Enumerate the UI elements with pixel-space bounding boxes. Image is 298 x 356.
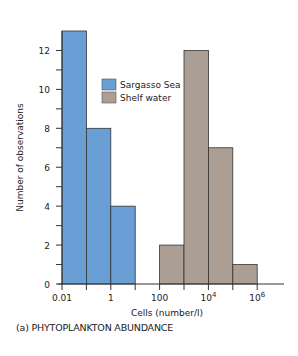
y-tick-label-4: 4 bbox=[44, 202, 50, 212]
x-ticks-group: 0.011100104106 bbox=[52, 284, 266, 303]
y-tick-label-8: 8 bbox=[44, 124, 50, 134]
y-tick-label-10: 10 bbox=[39, 85, 51, 95]
legend: Sargasso SeaShelf water bbox=[102, 79, 181, 103]
legend-label-1: Shelf water bbox=[120, 93, 171, 103]
bar-shelf-water-1 bbox=[184, 50, 208, 284]
histogram-chart: 024681012 0.011100104106 Number of obser… bbox=[0, 0, 298, 320]
bars-group bbox=[62, 31, 257, 284]
bar-sargasso-sea-0 bbox=[62, 31, 86, 284]
x-tick-label-2: 100 bbox=[151, 293, 168, 303]
legend-swatch-0 bbox=[102, 79, 116, 90]
bar-sargasso-sea-2 bbox=[111, 206, 135, 284]
bar-shelf-water-3 bbox=[233, 265, 257, 284]
y-tick-label-6: 6 bbox=[44, 163, 50, 173]
x-axis-title: Cells (number/l) bbox=[131, 308, 203, 318]
bar-shelf-water-0 bbox=[160, 245, 184, 284]
x-tick-label--2: 0.01 bbox=[52, 293, 72, 303]
legend-swatch-1 bbox=[102, 92, 116, 103]
bar-sargasso-sea-1 bbox=[86, 128, 110, 284]
figure-caption: (a) PHYTOPLANKTON ABUNDANCE bbox=[16, 322, 173, 333]
legend-label-0: Sargasso Sea bbox=[120, 80, 181, 90]
x-tick-label-0: 1 bbox=[108, 293, 114, 303]
y-ticks-group: 024681012 bbox=[39, 46, 62, 290]
x-tick-label-4: 104 bbox=[200, 291, 216, 303]
y-tick-label-0: 0 bbox=[44, 280, 50, 290]
bar-shelf-water-2 bbox=[208, 148, 232, 284]
y-axis-title: Number of observations bbox=[15, 103, 25, 212]
y-tick-label-12: 12 bbox=[39, 46, 50, 56]
x-tick-label-6: 106 bbox=[249, 291, 265, 303]
y-tick-label-2: 2 bbox=[44, 241, 50, 251]
